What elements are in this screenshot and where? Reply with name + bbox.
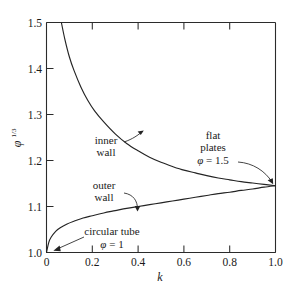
y-axis-title: φ 1/3 xyxy=(10,128,24,147)
y-axis-title-exponent: 1/3 xyxy=(10,128,18,137)
outer-wall-arrowhead xyxy=(135,206,141,212)
chart-canvas: 1.0 1.1 1.2 1.3 1.4 1.5 0 0.2 0.4 0.6 0.… xyxy=(0,0,308,307)
annotation-circular-tube: circular tube φ = 1 xyxy=(53,225,139,251)
x-axis-ticks-top xyxy=(92,23,229,30)
x-axis-ticks xyxy=(47,246,276,253)
circular-tube-leader-line xyxy=(56,237,84,250)
x-tick-label-0: 0 xyxy=(44,256,50,268)
y-tick-label-1p5: 1.5 xyxy=(28,17,43,29)
inner-wall-label-line2: wall xyxy=(97,146,116,158)
curve-inner-wall xyxy=(61,23,275,186)
y-axis-title-phi: φ xyxy=(10,140,24,147)
x-axis-title: k xyxy=(157,270,163,284)
outer-wall-label-line2: wall xyxy=(95,191,114,203)
chart-figure: 1.0 1.1 1.2 1.3 1.4 1.5 0 0.2 0.4 0.6 0.… xyxy=(0,0,308,307)
flat-plates-label-line1: flat xyxy=(206,129,221,141)
y-tick-label-1p4: 1.4 xyxy=(28,63,43,75)
annotation-outer-wall: outer wall xyxy=(93,179,141,212)
flat-plates-leader-line xyxy=(238,162,272,182)
x-tick-label-0p8: 0.8 xyxy=(223,256,238,268)
annotation-inner-wall: inner wall xyxy=(95,130,144,158)
flat-plates-phi-equation: φ = 1.5 xyxy=(197,154,229,166)
inner-wall-label-line1: inner xyxy=(95,134,118,146)
x-tick-label-0p6: 0.6 xyxy=(177,256,192,268)
x-tick-label-0p4: 0.4 xyxy=(131,256,146,268)
x-tick-label-1p0: 1.0 xyxy=(268,256,283,268)
circular-tube-phi-value: = 1 xyxy=(106,238,123,250)
x-tick-labels: 0 0.2 0.4 0.6 0.8 1.0 xyxy=(44,256,283,268)
y-tick-label-1p3: 1.3 xyxy=(28,109,43,121)
y-tick-label-1p0: 1.0 xyxy=(28,247,43,259)
circular-tube-label: circular tube xyxy=(84,225,139,237)
flat-plates-label-line2: plates xyxy=(200,141,226,153)
circular-tube-phi-equation: φ = 1 xyxy=(100,238,123,250)
outer-wall-label-line1: outer xyxy=(93,179,116,191)
y-tick-labels: 1.0 1.1 1.2 1.3 1.4 1.5 xyxy=(28,17,43,259)
plot-frame xyxy=(47,23,276,253)
y-tick-label-1p1: 1.1 xyxy=(28,201,43,213)
y-axis-ticks xyxy=(47,23,54,253)
circular-tube-arrowhead xyxy=(53,245,60,251)
data-curves xyxy=(47,23,276,253)
flat-plates-phi-value: = 1.5 xyxy=(203,154,229,166)
x-tick-label-0p2: 0.2 xyxy=(85,256,100,268)
y-tick-label-1p2: 1.2 xyxy=(28,155,43,167)
curve-outer-wall xyxy=(47,186,276,253)
